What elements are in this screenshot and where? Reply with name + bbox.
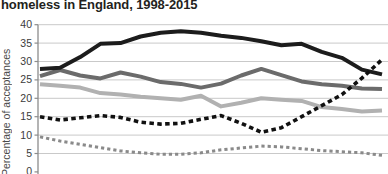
y-tick-label-10: 10 xyxy=(20,129,32,141)
y-tick-label-0: 0 xyxy=(26,165,32,174)
chart-panel: homeless in England, 1998-2015 Percentag… xyxy=(0,0,388,174)
series-line-black-solid xyxy=(40,31,382,74)
y-tick-label-15: 15 xyxy=(20,110,32,122)
series-line-black-dashed xyxy=(40,60,382,133)
y-tick-label-30: 30 xyxy=(20,55,32,67)
y-tick-label-20: 20 xyxy=(20,92,32,104)
series-line-dark-gray-solid xyxy=(40,69,382,89)
line-chart: 4035302520151050 xyxy=(0,0,388,174)
y-tick-label-5: 5 xyxy=(26,147,32,159)
y-tick-label-25: 25 xyxy=(20,73,32,85)
y-tick-label-40: 40 xyxy=(20,18,32,30)
y-tick-label-35: 35 xyxy=(20,37,32,49)
series-line-gray-dashed xyxy=(40,137,382,155)
